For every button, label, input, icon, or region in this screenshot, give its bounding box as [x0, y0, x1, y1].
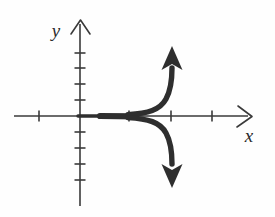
y-axis-label: y [50, 20, 61, 41]
figure-root: y x [0, 0, 275, 217]
x-axis-label: x [244, 125, 254, 146]
curve-lower-branch [128, 118, 172, 164]
curve-group [78, 46, 183, 188]
coordinate-plane-figure: y x [0, 0, 275, 217]
curve-upper-branch [128, 68, 172, 115]
curve-lower-arrowhead [162, 164, 183, 188]
